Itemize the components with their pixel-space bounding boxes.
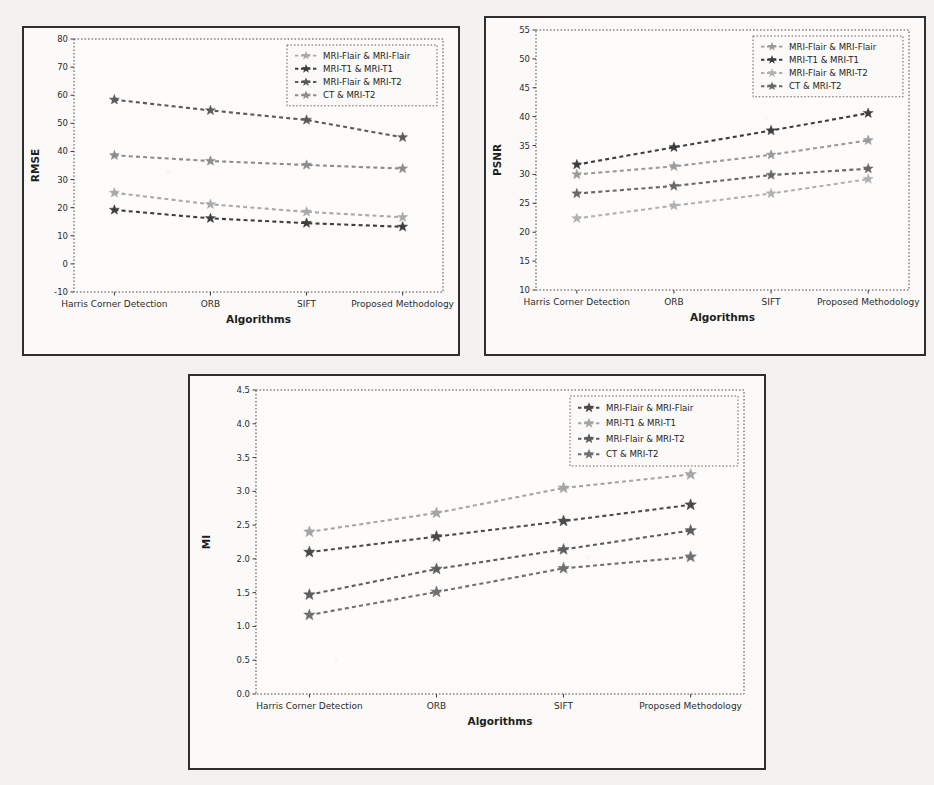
y-tick-label: 40 [57,146,68,156]
legend-label: MRI-Flair & MRI-Flair [789,42,877,52]
legend-label: CT & MRI-T2 [606,449,658,459]
psnr-chart-legend: MRI-Flair & MRI-FlairMRI-T1 & MRI-T1MRI-… [753,36,903,97]
y-tick-label: 40 [519,112,530,122]
x-tick-label: Harris Corner Detection [61,299,167,309]
x-tick-label: ORB [201,299,221,309]
y-tick-label: 45 [519,83,530,93]
y-tick-label: 15 [519,256,530,266]
rmse-chart-y-axis: -1001020304050607080 [54,34,74,297]
x-tick-label: ORB [664,297,684,307]
x-tick-label: Harris Corner Detection [524,297,630,307]
legend-label: CT & MRI-T2 [323,90,375,100]
mi-chart-panel: 0.00.51.01.52.02.53.03.54.04.5MIHarris C… [188,374,766,770]
y-tick-label: 0.0 [236,689,250,699]
mi-chart-svg: 0.00.51.01.52.02.53.03.54.04.5MIHarris C… [190,376,764,768]
y-tick-label: 80 [57,34,68,44]
y-tick-label: 25 [519,198,530,208]
y-axis-title: PSNR [491,144,503,176]
legend-label: MRI-Flair & MRI-Flair [323,51,411,61]
y-tick-label: 3.5 [236,453,250,463]
y-tick-label: 1.0 [236,621,250,631]
legend-label: MRI-Flair & MRI-T2 [789,68,868,78]
x-axis-title: Algorithms [468,715,533,727]
rmse-chart-panel: -1001020304050607080RMSEHarris Corner De… [22,26,460,356]
x-tick-label: Proposed Methodology [639,701,742,711]
y-tick-label: 2.5 [236,520,250,530]
rmse-chart-x-axis: Harris Corner DetectionORBSIFTProposed M… [61,292,454,309]
x-tick-label: Proposed Methodology [817,297,920,307]
x-axis-title: Algorithms [226,313,291,325]
rmse-chart-svg: -1001020304050607080RMSEHarris Corner De… [24,28,458,354]
y-tick-label: 3.0 [236,486,250,496]
y-tick-label: 50 [519,54,530,64]
y-tick-label: 4.0 [236,419,250,429]
y-tick-label: 20 [57,203,68,213]
legend-label: MRI-T1 & MRI-T1 [789,55,859,65]
y-tick-label: -10 [54,287,68,297]
psnr-chart-y-axis: 10152025303540455055 [519,25,536,295]
y-tick-label: 10 [519,285,530,295]
x-tick-label: ORB [427,701,447,711]
y-axis-title: RMSE [29,149,41,182]
legend-label: MRI-Flair & MRI-T2 [606,434,685,444]
y-tick-label: 60 [57,90,68,100]
y-axis-title: MI [200,535,212,549]
mi-chart-legend: MRI-Flair & MRI-FlairMRI-T1 & MRI-T1MRI-… [570,396,738,466]
y-tick-label: 30 [57,175,68,185]
psnr-chart-x-axis: Harris Corner DetectionORBSIFTProposed M… [524,290,921,307]
y-tick-label: 20 [519,227,530,237]
x-tick-label: SIFT [554,701,573,711]
y-tick-label: 55 [519,25,530,35]
y-tick-label: 50 [57,118,68,128]
y-tick-label: 0.5 [236,655,250,665]
x-tick-label: SIFT [762,297,781,307]
mi-chart-y-axis: 0.00.51.01.52.02.53.03.54.04.5 [236,385,256,699]
x-axis-title: Algorithms [690,311,755,323]
rmse-chart-legend: MRI-Flair & MRI-FlairMRI-T1 & MRI-T1MRI-… [287,45,437,106]
x-tick-label: SIFT [297,299,316,309]
mi-chart-x-axis: Harris Corner DetectionORBSIFTProposed M… [256,694,742,711]
y-tick-label: 70 [57,62,68,72]
legend-label: MRI-T1 & MRI-T1 [323,64,393,74]
legend-label: MRI-Flair & MRI-Flair [606,403,694,413]
y-tick-label: 30 [519,169,530,179]
x-tick-label: Proposed Methodology [351,299,454,309]
legend-label: CT & MRI-T2 [789,81,841,91]
y-tick-label: 0 [63,259,68,269]
legend-label: MRI-T1 & MRI-T1 [606,418,676,428]
legend-label: MRI-Flair & MRI-T2 [323,77,402,87]
y-tick-label: 35 [519,141,530,151]
psnr-chart-panel: 10152025303540455055PSNRHarris Corner De… [484,16,926,356]
y-tick-label: 1.5 [236,588,250,598]
y-tick-label: 2.0 [236,554,250,564]
psnr-chart-svg: 10152025303540455055PSNRHarris Corner De… [486,18,924,354]
x-tick-label: Harris Corner Detection [256,701,362,711]
y-tick-label: 4.5 [236,385,250,395]
y-tick-label: 10 [57,231,68,241]
figure-page: -1001020304050607080RMSEHarris Corner De… [0,0,934,785]
